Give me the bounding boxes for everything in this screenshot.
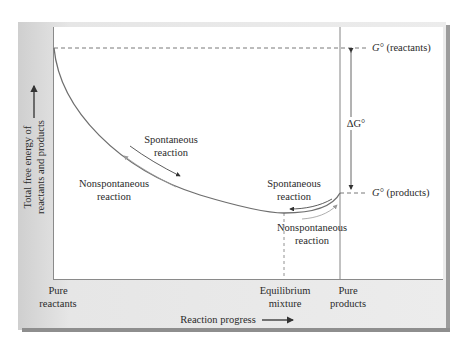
- pure-reactants-label: Pure reactants: [28, 284, 88, 310]
- pure-products-label: Pure products: [318, 284, 378, 310]
- products-level-label: G° (products): [372, 186, 430, 199]
- right-spontaneous-label: Spontaneous reaction: [254, 177, 334, 203]
- y-axis-label: Total free energy of reactants and produ…: [21, 117, 55, 217]
- left-spontaneous-label: Spontaneous reaction: [131, 133, 211, 159]
- delta-g-label: ΔG°: [344, 117, 368, 130]
- reactants-level-label: G° (reactants): [372, 41, 431, 54]
- right-nonspontaneous-arrow: [302, 205, 337, 219]
- free-energy-diagram: Total free energy of reactants and produ…: [0, 0, 466, 355]
- x-axis-label: Reaction progress: [176, 313, 260, 326]
- left-nonspontaneous-label: Nonspontaneous reaction: [68, 177, 160, 203]
- right-nonspontaneous-label: Nonspontaneous reaction: [266, 221, 358, 247]
- equilibrium-mixture-label: Equilibrium mixture: [250, 284, 320, 310]
